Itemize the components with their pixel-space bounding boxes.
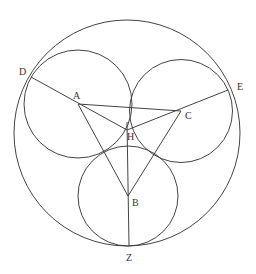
segment-c-b	[128, 111, 181, 196]
geometry-diagram: D A E C H B Z	[0, 0, 256, 274]
label-e: E	[237, 81, 243, 92]
label-c: C	[185, 110, 192, 121]
label-b: B	[132, 197, 139, 208]
label-z: Z	[126, 252, 132, 263]
label-a: A	[73, 90, 81, 101]
label-d: D	[19, 66, 26, 77]
segment-e-h	[127, 90, 228, 130]
segment-a-b	[78, 104, 128, 196]
segment-d-h	[31, 77, 127, 130]
label-h: H	[127, 131, 134, 142]
